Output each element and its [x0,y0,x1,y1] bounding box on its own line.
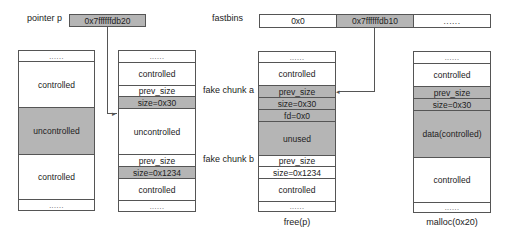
cell-prev-size: prev_size [119,86,195,97]
cell-ellipsis-bottom: ...... [414,203,490,212]
cell-controlled: controlled [259,63,335,86]
fastbin-slot-2: ...... [414,15,490,27]
cell-controlled: controlled [414,158,490,203]
memory-column-fake-chunks: ...... controlled prev_size size=0x30 un… [118,50,196,212]
cell-ellipsis-bottom: ...... [119,201,195,211]
cell-unused: unused [259,122,335,156]
cell-controlled: controlled [19,62,94,108]
pointer-value-box: 0x7ffffffdb20 [69,14,146,27]
cell-uncontrolled: uncontrolled [119,109,195,155]
fastbins-label: fastbins [212,13,243,23]
cell-fd: fd=0x0 [259,110,335,122]
cell-prev-size: prev_size [119,155,195,167]
arrow-head-left-icon: ◂ [336,88,340,95]
cell-ellipsis-top: ...... [119,51,195,63]
caption-free: free(p) [258,217,336,227]
memory-column-after-malloc: ...... controlled prev_size size=0x30 da… [413,51,491,213]
cell-ellipsis-top: ...... [259,52,335,63]
cell-size: size=0x1234 [259,167,335,179]
memory-column-original: ...... controlled uncontrolled controlle… [18,50,95,211]
pointer-arrow-vertical [107,27,108,114]
cell-size: size=0x30 [414,99,490,111]
cell-prev-size: prev_size [259,156,335,167]
fastbin-arrow-vertical [374,27,375,92]
cell-ellipsis-top: ...... [19,51,94,62]
cell-uncontrolled: uncontrolled [19,108,94,155]
cell-data-controlled: data(controlled) [414,111,490,158]
pointer-label: pointer p [27,13,62,23]
cell-ellipsis-top: ...... [414,52,490,64]
cell-controlled: controlled [259,179,335,202]
cell-ellipsis-bottom: ...... [259,202,335,211]
fake-chunk-a-label: fake chunk a [203,85,254,95]
cell-prev-size: prev_size [259,86,335,98]
fastbin-arrow-horizontal [338,91,375,92]
cell-controlled: controlled [119,63,195,86]
cell-prev-size: prev_size [414,87,490,99]
caption-malloc: malloc(0x20) [403,217,501,227]
cell-size: size=0x30 [119,97,195,109]
cell-controlled: controlled [19,155,94,200]
arrow-head-right-icon: ▸ [112,110,116,117]
memory-column-after-free: ...... controlled prev_size size=0x30 fd… [258,51,336,212]
cell-controlled: controlled [414,64,490,87]
fastbin-slot-0: 0x0 [260,15,337,27]
cell-size: size=0x30 [259,98,335,110]
cell-controlled: controlled [119,179,195,201]
cell-size: size=0x1234 [119,167,195,179]
fake-chunk-b-label: fake chunk b [203,154,254,164]
fastbins-bar: 0x0 0x7ffffffdb10 ...... [259,14,491,28]
fastbin-slot-1: 0x7ffffffdb10 [337,15,414,27]
cell-ellipsis-bottom: ...... [19,200,94,210]
